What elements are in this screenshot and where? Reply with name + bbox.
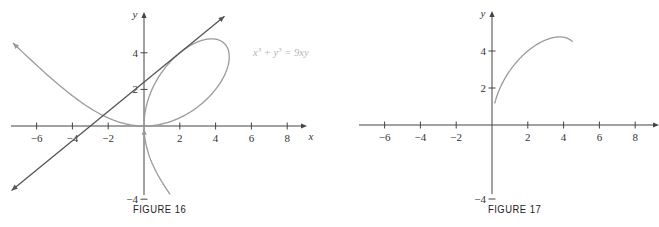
x-tick-label: 6	[597, 131, 603, 143]
x-tick-label: 2	[177, 132, 183, 144]
equation-label: x3 + y3 = 9xy	[252, 46, 309, 58]
x-tick-label: −2	[102, 132, 114, 144]
x-tick-label: 8	[284, 132, 290, 144]
x-axis-arrow-icon	[653, 122, 659, 127]
y-axis-label: y	[132, 8, 138, 20]
y-axis-arrow-icon	[141, 12, 146, 18]
figure-16-caption: FIGURE 16	[133, 203, 186, 215]
x-axis-label: x	[308, 130, 314, 142]
x-tick-label: −2	[450, 131, 462, 143]
x-tick-label: 4	[561, 131, 567, 143]
folium-left-branch	[13, 43, 144, 126]
tangent-line	[12, 16, 225, 190]
y-tick-label: 4	[481, 45, 487, 57]
x-tick-label: 4	[213, 132, 219, 144]
x-tick-label: 6	[249, 132, 255, 144]
y-tick-label: −4	[474, 193, 486, 205]
x-tick-label: −4	[415, 131, 427, 143]
folium-loop	[144, 39, 229, 126]
figure-17-caption: FIGURE 17	[488, 203, 541, 215]
x-tick-label: −6	[379, 131, 391, 143]
folium-upper-branch-curve	[495, 37, 573, 104]
figure-17: −6−4−2246842−4yx FIGURE 17	[330, 0, 659, 227]
x-tick-label: 8	[632, 131, 638, 143]
y-axis-label: y	[480, 7, 486, 19]
y-tick-label: 2	[481, 82, 487, 94]
x-tick-label: −6	[31, 132, 43, 144]
folium-lower-branch	[144, 129, 170, 195]
x-axis-arrow-icon	[301, 123, 307, 128]
y-tick-label: 4	[133, 47, 139, 59]
figure-16-plot: −6−4−2246842−4yxx3 + y3 = 9xy	[0, 0, 330, 227]
figure-16: −6−4−2246842−4yxx3 + y3 = 9xy FIGURE 16	[0, 0, 330, 227]
x-tick-label: 2	[525, 131, 531, 143]
y-axis-arrow-icon	[489, 11, 494, 17]
curve-arrow-lower-icon	[142, 129, 147, 135]
figure-17-plot: −6−4−2246842−4yx	[330, 0, 659, 227]
x-tick-label: −4	[67, 132, 79, 144]
